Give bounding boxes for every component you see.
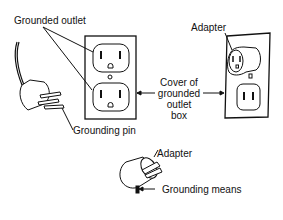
label-adapter-top: Adapter xyxy=(191,22,226,33)
grounding-diagram: Grounded outlet Grounding pin Adapter Co… xyxy=(0,0,283,220)
center-screw xyxy=(108,75,112,79)
grounding-means-tab xyxy=(136,186,139,193)
plug-cord xyxy=(15,42,22,85)
label-cover-of-grounded-outlet-box: Cover of grounded outlet box xyxy=(155,77,203,121)
right-outlet-plate xyxy=(225,33,270,118)
label-grounded-outlet: Grounded outlet xyxy=(14,15,86,26)
label-adapter-bottom: Adapter xyxy=(157,148,192,159)
right-lower-receptacle xyxy=(237,84,260,110)
label-grounding-means: Grounding means xyxy=(162,184,242,195)
label-grounding-pin: Grounding pin xyxy=(73,125,136,136)
label-cover-line4: box xyxy=(155,110,203,121)
label-cover-line3: outlet xyxy=(155,99,203,110)
grounding-pin-prong xyxy=(44,105,64,109)
label-cover-line2: grounded xyxy=(155,88,203,99)
label-cover-line1: Cover of xyxy=(155,77,203,88)
